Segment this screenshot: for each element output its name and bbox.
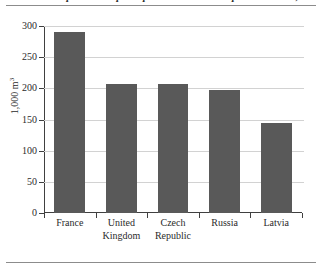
bar (158, 84, 189, 213)
x-axis-tick (302, 213, 303, 218)
figure-caption: Roundwood production per capita in selec… (12, 0, 310, 4)
gridline (44, 26, 304, 27)
y-axis-tick-label: 300 (22, 21, 37, 31)
y-axis-tick (39, 26, 44, 27)
y-axis-tick (39, 182, 44, 183)
y-axis-tick-label: 200 (22, 83, 37, 93)
y-axis-tick-label: 250 (22, 52, 37, 62)
y-axis-tick (39, 151, 44, 152)
figure: Roundwood production per capita in selec… (0, 0, 322, 271)
bottom-rule (6, 262, 316, 263)
y-axis-tick (39, 120, 44, 121)
x-axis-category-label: Russia (199, 217, 251, 230)
x-axis-category-label: United Kingdom (96, 217, 148, 242)
bar (209, 90, 240, 213)
bar (261, 123, 292, 213)
y-axis-tick-label: 150 (22, 115, 37, 125)
y-axis-tick-label: 100 (22, 146, 37, 156)
y-axis-title: 1,000 m3 (10, 78, 20, 114)
y-axis-tick-label: 0 (32, 208, 37, 218)
plot-area: 050100150200250300 (44, 26, 302, 213)
y-axis-tick (39, 57, 44, 58)
bar (54, 32, 85, 213)
x-axis-category-label: Latvia (250, 217, 302, 230)
y-axis-tick-label: 50 (27, 177, 37, 187)
y-axis-title-exponent: 3 (8, 78, 16, 82)
y-axis-title-text: 1,000 m (9, 81, 20, 114)
top-rule (6, 5, 316, 6)
x-axis-category-label: Czech Republic (147, 217, 199, 242)
x-axis-category-label: France (44, 217, 96, 230)
bar (106, 84, 137, 213)
y-axis-tick (39, 88, 44, 89)
